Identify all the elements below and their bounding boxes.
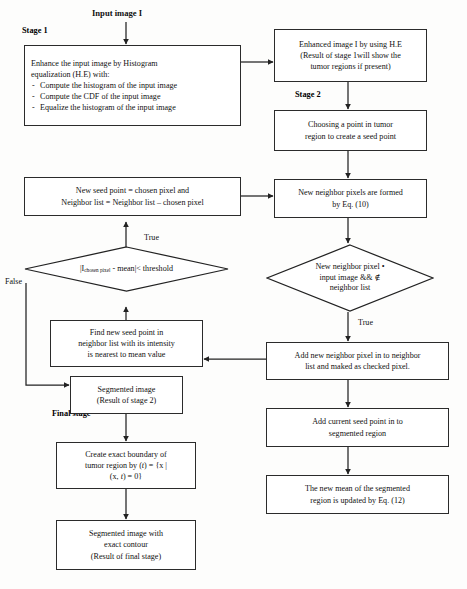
threshold-suffix: - mean|< threshold bbox=[110, 264, 173, 273]
boundary-line-3-b: ) = 0} bbox=[123, 472, 142, 481]
findseed-line-2: neighbor list with its intensity bbox=[78, 338, 175, 349]
boundary-line-3-a: (x, bbox=[110, 472, 121, 481]
node-segmented-with-contour[interactable]: Segmented image with exact contour (Resu… bbox=[56, 520, 196, 570]
stage1-label: Stage 1 bbox=[22, 26, 48, 35]
he-bullet-2: Compute the CDF of the input image bbox=[31, 91, 161, 102]
boundary-line-1: Create exact boundary of bbox=[85, 449, 167, 460]
he-bullet-3: Equalize the histogram of the input imag… bbox=[31, 102, 176, 113]
neighbors-line-1: New neighbor pixels are formed bbox=[298, 187, 403, 198]
findseed-line-1: Find new seed point in bbox=[90, 327, 164, 338]
node-add-to-neighbor-list[interactable]: Add new neighbor pixel in to neighbor li… bbox=[266, 342, 449, 380]
boundary-line-3: (x, t) = 0} bbox=[110, 471, 142, 482]
threshold-subscript: chosen pixel bbox=[84, 267, 110, 273]
newseed-line-1: New seed point = chosen pixel and bbox=[76, 185, 189, 196]
node-membership-decision[interactable]: New neighbor pixel • input image && ∉ ne… bbox=[266, 244, 434, 312]
edge-label-true-right: True bbox=[358, 318, 373, 327]
enhanced-line-3: tumor regions if present) bbox=[310, 61, 390, 72]
node-add-seed-to-region[interactable]: Add current seed point in to segmented r… bbox=[266, 408, 449, 447]
enhanced-line-2: (Result of stage 1will show the bbox=[300, 50, 400, 61]
node-create-exact-boundary[interactable]: Create exact boundary of tumor region by… bbox=[56, 442, 196, 489]
node-enhanced-image[interactable]: Enhanced image I by using H.E (Result of… bbox=[274, 29, 427, 82]
node-update-mean[interactable]: The new mean of the segmented region is … bbox=[266, 475, 449, 514]
boundary-line-2: tumor region by (t) = {x | bbox=[85, 460, 167, 471]
boundary-line-2-b: ) = {x | bbox=[144, 461, 167, 470]
segstage2-line-2: (Result of stage 2) bbox=[97, 395, 157, 406]
flowchart-canvas: Input image I Stage 1 Stage 2 Final stag… bbox=[0, 0, 467, 589]
he-line-1: Enhance the input image by Histogram bbox=[31, 58, 158, 69]
boundary-line-2-a: tumor region by ( bbox=[85, 461, 142, 470]
stage2-label: Stage 2 bbox=[295, 90, 321, 99]
newseed-line-2: Neighbor list = Neighbor list – chosen p… bbox=[61, 197, 203, 208]
node-segmented-image-stage2[interactable]: Segmented image (Result of stage 2) bbox=[70, 376, 183, 414]
membership-line-1: New neighbor pixel • bbox=[315, 262, 384, 273]
updatemean-line-2: region is updated by Eq. (12) bbox=[310, 495, 404, 506]
findseed-line-3: is nearest to mean value bbox=[88, 349, 166, 360]
node-new-neighbor-pixels[interactable]: New neighbor pixels are formed by Eq. (1… bbox=[274, 179, 427, 218]
node-histogram-equalization[interactable]: Enhance the input image by Histogram equ… bbox=[24, 45, 241, 126]
contour-line-2: exact contour bbox=[104, 539, 148, 550]
membership-decision-text: New neighbor pixel • input image && ∉ ne… bbox=[315, 262, 384, 294]
addseed-line-2: segmented region bbox=[329, 428, 386, 439]
threshold-decision-text: |Ichosen pixel - mean|< threshold bbox=[80, 264, 173, 275]
enhanced-line-1: Enhanced image I by using H.E bbox=[299, 39, 402, 50]
he-line-2: equalization (H.E) with: bbox=[31, 69, 109, 80]
membership-line-3: neighbor list bbox=[315, 283, 384, 294]
neighbors-line-2: by Eq. (10) bbox=[332, 199, 369, 210]
membership-line-2: input image && ∉ bbox=[315, 273, 384, 284]
edge-label-true-left: True bbox=[144, 233, 159, 242]
node-choose-seed-point[interactable]: Choosing a point in tumor region to crea… bbox=[274, 110, 427, 151]
node-threshold-decision[interactable]: |Ichosen pixel - mean|< threshold bbox=[24, 246, 229, 292]
addneighbor-line-1: Add new neighbor pixel in to neighbor bbox=[295, 350, 421, 361]
node-find-new-seed-point[interactable]: Find new seed point in neighbor list wit… bbox=[50, 320, 203, 367]
contour-line-1: Segmented image with bbox=[89, 528, 163, 539]
choose-line-1: Choosing a point in tumor bbox=[308, 119, 393, 130]
edge-label-false-left: False bbox=[5, 277, 22, 286]
addseed-line-1: Add current seed point in to bbox=[312, 416, 403, 427]
contour-line-3: (Result of final stage) bbox=[91, 551, 161, 562]
he-bullet-1: Compute the histogram of the input image bbox=[31, 80, 177, 91]
updatemean-line-1: The new mean of the segmented bbox=[305, 483, 410, 494]
input-image-title: Input image I bbox=[92, 8, 142, 18]
choose-line-2: region to create a seed point bbox=[305, 131, 396, 142]
addneighbor-line-2: list and maked as checked pixel. bbox=[305, 361, 410, 372]
segstage2-line-1: Segmented image bbox=[98, 384, 156, 395]
node-new-seed-point[interactable]: New seed point = chosen pixel and Neighb… bbox=[24, 177, 241, 216]
